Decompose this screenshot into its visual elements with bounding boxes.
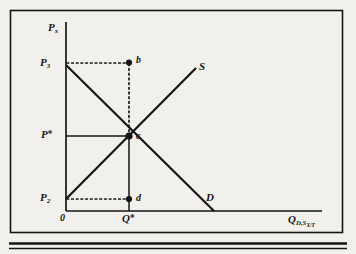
x-axis-label-subscript2-text: X/T: [306, 222, 314, 228]
quantity-tick-qstar: Q*: [122, 213, 135, 224]
supply-demand-figure: Px QD,SX/T P3 P* P2 0 Q* S D b c d: [0, 0, 356, 254]
point-marker-d: [126, 196, 132, 202]
price-tick-p2-subscript: 2: [47, 197, 50, 204]
point-label-d: d: [136, 193, 141, 203]
figure-frame: [11, 11, 343, 233]
x-axis-label-subscript-text: D,S: [296, 219, 306, 226]
point-marker-b: [126, 59, 132, 65]
origin-label-text: 0: [60, 212, 65, 223]
price-tick-pstar-base: P: [41, 128, 48, 140]
x-axis-label-subscript: D,SX/T: [296, 219, 315, 226]
demand-curve-label-text: D: [206, 191, 214, 203]
supply-curve-label: S: [199, 61, 205, 72]
x-axis-label: QD,SX/T: [288, 214, 315, 228]
origin-label: 0: [60, 213, 65, 223]
price-tick-p2: P2: [40, 192, 50, 205]
point-label-c: c: [136, 131, 140, 141]
point-label-d-text: d: [136, 192, 141, 203]
point-label-b-text: b: [136, 54, 141, 65]
price-tick-pstar-asterisk: *: [48, 129, 53, 139]
point-label-c-text: c: [136, 130, 140, 141]
price-tick-pstar: P*: [41, 129, 52, 140]
quantity-tick-qstar-asterisk: *: [130, 213, 135, 223]
price-tick-p3-subscript: 3: [47, 62, 50, 69]
point-label-b: b: [136, 55, 141, 65]
price-tick-p2-base: P: [40, 191, 47, 203]
quantity-tick-qstar-base: Q: [122, 212, 130, 224]
point-marker-c: [125, 132, 132, 139]
price-tick-p3: P3: [40, 57, 50, 70]
y-axis-label-subscript: x: [55, 27, 58, 34]
demand-curve-label: D: [206, 192, 214, 203]
supply-curve-label-text: S: [199, 60, 205, 72]
price-tick-p3-base: P: [40, 56, 47, 68]
y-axis-label-base: P: [48, 21, 55, 33]
x-axis-label-base: Q: [288, 213, 296, 225]
y-axis-label: Px: [48, 22, 58, 35]
